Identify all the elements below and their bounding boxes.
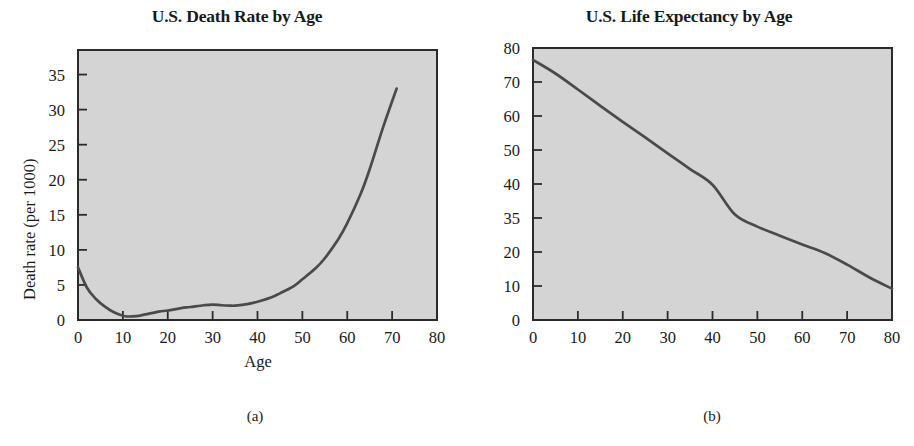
y-tick-label: 20 [49, 171, 66, 190]
y-tick-label: 5 [57, 276, 65, 295]
x-tick-label: 60 [794, 328, 811, 347]
x-tick-label: 20 [160, 328, 177, 347]
caption-a: (a) [225, 408, 285, 425]
figure-container: U.S. Death Rate by Age 05101520253035010… [0, 0, 914, 446]
chart-panel-b: U.S. Life Expectancy by Age 010203540506… [456, 0, 914, 446]
y-tick-label: 50 [504, 141, 521, 160]
x-tick-label: 40 [249, 328, 266, 347]
x-tick-label: 0 [74, 328, 82, 347]
y-tick-label: 30 [49, 101, 66, 120]
y-tick-label: 10 [504, 277, 521, 296]
y-tick-label: 70 [504, 73, 521, 92]
x-tick-label: 10 [115, 328, 132, 347]
y-tick-label: 40 [504, 175, 521, 194]
x-tick-label: 70 [384, 328, 401, 347]
x-tick-label: 50 [294, 328, 311, 347]
x-tick-label: 80 [884, 328, 901, 347]
y-tick-label: 60 [504, 107, 521, 126]
plot-background [78, 50, 437, 320]
x-tick-label: 10 [570, 328, 587, 347]
y-tick-label: 35 [504, 209, 521, 228]
y-tick-label: 0 [57, 311, 65, 330]
y-tick-label: 0 [512, 311, 520, 330]
y-tick-label: 20 [504, 243, 521, 262]
x-tick-label: 40 [704, 328, 721, 347]
y-tick-label: 15 [49, 206, 66, 225]
y-tick-label: 35 [49, 66, 66, 85]
x-tick-label: 50 [749, 328, 766, 347]
y-tick-label: 80 [504, 39, 521, 58]
x-axis-label-a: Age [218, 352, 298, 372]
x-tick-label: 30 [659, 328, 676, 347]
chart-panel-a: U.S. Death Rate by Age 05101520253035010… [0, 0, 458, 446]
y-tick-label: 25 [49, 136, 66, 155]
x-tick-label: 80 [429, 328, 446, 347]
y-axis-label-a: Death rate (per 1000) [20, 158, 40, 300]
plot-area-b: 0102035405060708001020304050607080 [456, 0, 914, 400]
x-tick-label: 60 [339, 328, 356, 347]
x-tick-label: 30 [204, 328, 221, 347]
plot-area-a: 0510152025303501020304050607080 [0, 0, 458, 400]
x-tick-label: 70 [839, 328, 856, 347]
y-tick-label: 10 [49, 241, 66, 260]
x-tick-label: 20 [615, 328, 632, 347]
x-tick-label: 0 [529, 328, 537, 347]
caption-b: (b) [682, 408, 742, 425]
